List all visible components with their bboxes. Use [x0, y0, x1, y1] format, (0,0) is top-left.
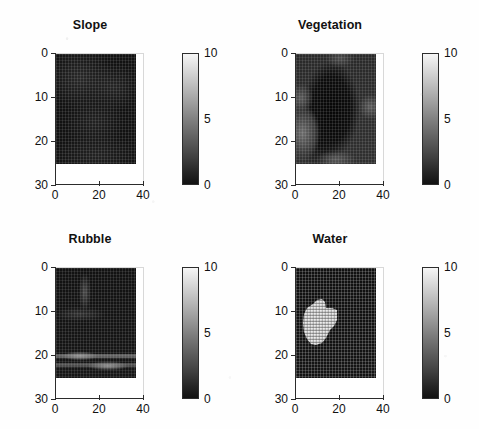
xticklabel-vegetation-0: 0 [292, 188, 299, 202]
colorbar-label-rubble-10: 10 [204, 260, 217, 274]
xticklabel-water-0: 0 [292, 402, 299, 416]
xticklabel-rubble-0: 0 [52, 402, 59, 416]
axes-slope [55, 53, 144, 185]
colorbar-label-water-10: 10 [444, 260, 457, 274]
image-rubble [56, 268, 136, 378]
raster-grid-overlay-water [296, 268, 376, 378]
yticklabel-water-20: 20 [262, 348, 288, 362]
colorbar-label-rubble-0: 0 [204, 392, 211, 406]
yticklabel-slope-0: 0 [22, 46, 48, 60]
xticklabel-rubble-20: 20 [92, 402, 105, 416]
yticklabel-rubble-20: 20 [22, 348, 48, 362]
raster-texture-vegetation [296, 54, 376, 164]
ytick-slope-0 [51, 53, 56, 54]
ytick-vegetation-10 [291, 97, 296, 98]
yticklabel-slope-10: 10 [22, 90, 48, 104]
xtick-slope-20 [99, 181, 100, 186]
ytick-rubble-20 [51, 355, 56, 356]
colorbar-label-vegetation-5: 5 [444, 112, 451, 126]
yticklabel-vegetation-0: 0 [262, 46, 288, 60]
yticklabel-vegetation-20: 20 [262, 134, 288, 148]
yticklabel-water-0: 0 [262, 260, 288, 274]
colorbar-label-rubble-5: 5 [204, 326, 211, 340]
yticklabel-vegetation-10: 10 [262, 90, 288, 104]
yticklabel-slope-30: 30 [22, 178, 48, 192]
xticklabel-water-20: 20 [332, 402, 345, 416]
panel-title-rubble: Rubble [10, 232, 170, 246]
panel-rubble: Rubble 0 20 40 0 10 20 30 10 5 0 [0, 232, 240, 428]
panel-title-vegetation: Vegetation [250, 18, 410, 32]
xticklabel-rubble-40: 40 [136, 402, 149, 416]
raster-texture-rubble [56, 268, 136, 378]
ytick-water-0 [291, 267, 296, 268]
yticklabel-water-10: 10 [262, 304, 288, 318]
ytick-vegetation-20 [291, 141, 296, 142]
yticklabel-rubble-10: 10 [22, 304, 48, 318]
axes-vegetation [295, 53, 384, 185]
image-slope [56, 54, 136, 164]
xtick-vegetation-20 [339, 181, 340, 186]
xtick-slope-40 [143, 181, 144, 186]
axes-rubble [55, 267, 144, 399]
colorbar-label-slope-5: 5 [204, 112, 211, 126]
ytick-rubble-0 [51, 267, 56, 268]
yticklabel-vegetation-30: 30 [262, 178, 288, 192]
panel-title-water: Water [250, 232, 410, 246]
colorbar-water [422, 267, 439, 399]
colorbar-label-water-5: 5 [444, 326, 451, 340]
xticklabel-slope-40: 40 [136, 188, 149, 202]
ytick-slope-10 [51, 97, 56, 98]
xticklabel-vegetation-40: 40 [376, 188, 389, 202]
ytick-slope-30 [51, 185, 56, 186]
figure-canvas: Slope 0 20 40 0 10 20 30 10 5 0 Vegetati… [0, 0, 479, 429]
xticklabel-water-40: 40 [376, 402, 389, 416]
ytick-water-30 [291, 399, 296, 400]
ytick-vegetation-0 [291, 53, 296, 54]
xticklabel-slope-20: 20 [92, 188, 105, 202]
xticklabel-vegetation-20: 20 [332, 188, 345, 202]
panel-water: Water [240, 232, 479, 428]
yticklabel-slope-20: 20 [22, 134, 48, 148]
panel-vegetation: Vegetation 0 20 40 0 10 20 30 10 5 0 [240, 18, 479, 214]
ytick-water-10 [291, 311, 296, 312]
axes-water [295, 267, 384, 399]
yticklabel-rubble-0: 0 [22, 260, 48, 274]
image-vegetation [296, 54, 376, 164]
image-water [296, 268, 376, 378]
colorbar-label-vegetation-10: 10 [444, 46, 457, 60]
raster-texture-slope [56, 54, 136, 164]
colorbar-vegetation [422, 53, 439, 185]
colorbar-rubble [182, 267, 199, 399]
panel-title-slope: Slope [10, 18, 170, 32]
xticklabel-slope-0: 0 [52, 188, 59, 202]
xtick-water-40 [383, 395, 384, 400]
xtick-rubble-40 [143, 395, 144, 400]
colorbar-label-water-0: 0 [444, 392, 451, 406]
ytick-slope-20 [51, 141, 56, 142]
yticklabel-rubble-30: 30 [22, 392, 48, 406]
ytick-rubble-10 [51, 311, 56, 312]
colorbar-label-slope-0: 0 [204, 178, 211, 192]
colorbar-label-slope-10: 10 [204, 46, 217, 60]
ytick-rubble-30 [51, 399, 56, 400]
colorbar-slope [182, 53, 199, 185]
yticklabel-water-30: 30 [262, 392, 288, 406]
colorbar-label-vegetation-0: 0 [444, 178, 451, 192]
panel-slope: Slope 0 20 40 0 10 20 30 10 5 0 [0, 18, 240, 214]
xtick-vegetation-40 [383, 181, 384, 186]
xtick-water-20 [339, 395, 340, 400]
ytick-vegetation-30 [291, 185, 296, 186]
ytick-water-20 [291, 355, 296, 356]
xtick-rubble-20 [99, 395, 100, 400]
